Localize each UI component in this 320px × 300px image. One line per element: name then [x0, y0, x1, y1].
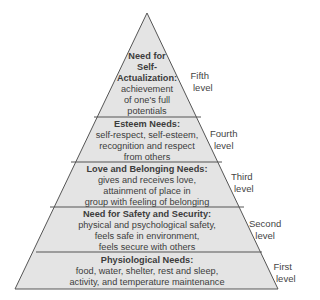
tier-heading: Need for Safety and Security: [42, 209, 252, 220]
tier-heading: Physiological Needs: [27, 255, 267, 266]
tier-love-belonging: Love and Belonging Needs: gives and rece… [57, 164, 237, 208]
level-label-first: First level [270, 261, 296, 284]
tier-heading: Esteem Needs: [77, 119, 217, 130]
level-label-fifth: Fifth level [187, 70, 213, 93]
tier-body: self-respect, self-esteem, recognition a… [77, 130, 217, 163]
tier-heading: Need for Self- Actualization: [97, 51, 197, 84]
level-label-third: Third level [230, 171, 254, 194]
tier-body: gives and receives love, attainment of p… [57, 175, 237, 208]
tier-body: achievement of one's full potentials [97, 84, 197, 117]
tier-esteem: Esteem Needs: self-respect, self-esteem,… [77, 119, 217, 163]
tier-body: physical and psychological safety, feels… [42, 220, 252, 253]
tier-heading: Love and Belonging Needs: [57, 164, 237, 175]
tier-body: food, water, shelter, rest and sleep, ac… [27, 266, 267, 288]
level-label-fourth: Fourth level [210, 128, 237, 151]
tier-safety-security: Need for Safety and Security: physical a… [42, 209, 252, 253]
level-label-second: Second level [249, 218, 281, 241]
tier-physiological: Physiological Needs: food, water, shelte… [27, 255, 267, 288]
tier-self-actualization: Need for Self- Actualization: achievemen… [97, 51, 197, 117]
